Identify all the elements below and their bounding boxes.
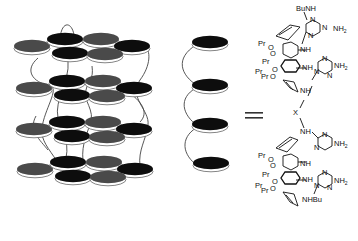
svg-text:N: N [327,183,332,192]
svg-text:N: N [308,31,313,40]
svg-text:NH: NH [300,86,311,95]
svg-text:Pr: Pr [261,72,269,81]
rosette-layer-2 [16,75,152,105]
svg-text:N: N [310,15,315,24]
svg-text:N: N [322,130,327,139]
structure-labels: BuNH N N N NH2 NH Pr O O Pr O Pr Pr O NH… [255,4,348,204]
svg-text:N: N [322,168,327,177]
svg-text:O: O [270,184,276,193]
svg-text:NH: NH [302,63,313,72]
svg-text:N: N [327,71,332,80]
svg-text:NH: NH [302,175,313,184]
svg-text:N: N [314,67,319,76]
svg-text:NH2: NH2 [334,139,348,149]
svg-text:X: X [293,108,298,117]
svg-text:N: N [314,181,319,190]
svg-text:Pr: Pr [261,186,269,195]
svg-text:N: N [314,143,319,152]
svg-text:NH2: NH2 [334,61,348,71]
equals-sign [245,112,263,119]
disc-column [182,36,229,172]
svg-text:NH2: NH2 [333,24,347,34]
svg-text:N: N [322,23,327,32]
svg-text:NHBu: NHBu [302,195,322,204]
svg-text:NH2: NH2 [334,176,348,186]
svg-text:Pr: Pr [258,39,266,48]
svg-text:Pr: Pr [262,57,270,66]
rosette-layer-4 [17,156,153,186]
svg-text:N: N [322,54,327,63]
svg-text:Pr: Pr [262,170,270,179]
rosette-layer-3 [16,116,152,146]
svg-text:NH: NH [300,159,311,168]
svg-text:O: O [270,49,276,58]
rosette-diagram: BuNH N N N NH2 NH Pr O O Pr O Pr Pr O NH… [0,0,358,241]
svg-text:Pr: Pr [258,151,266,160]
svg-text:O: O [270,72,276,81]
rosette-layer-1 [14,33,150,63]
svg-text:NH: NH [300,45,311,54]
svg-text:BuNH: BuNH [296,4,316,13]
svg-text:NH: NH [300,127,311,136]
rosette-stack [14,33,153,186]
svg-text:O: O [270,161,276,170]
